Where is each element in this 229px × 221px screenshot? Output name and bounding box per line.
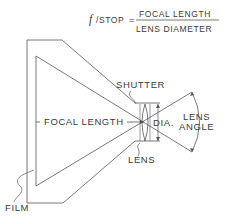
formula-f: f	[89, 12, 94, 26]
shutter-leader	[129, 91, 136, 104]
film-leader	[14, 170, 34, 202]
lens-angle-label-2: ANGLE	[179, 121, 214, 132]
formula-stop: /STOP	[96, 15, 124, 25]
fstop-formula: f /STOP = FOCAL LENGTH LENS DIAMETER	[89, 9, 219, 34]
focal-length-label: FOCAL LENGTH	[44, 116, 124, 127]
formula-numerator: FOCAL LENGTH	[139, 9, 211, 19]
shutter-label: SHUTTER	[116, 79, 165, 90]
dia-arrow-top	[156, 104, 160, 108]
formula-equals: =	[129, 14, 135, 25]
dia-label: DIA.	[153, 117, 174, 128]
light-ray-bottom	[36, 92, 192, 186]
lens-label: LENS	[128, 154, 155, 165]
formula-denominator: LENS DIAMETER	[136, 24, 212, 34]
light-ray-top	[36, 56, 192, 152]
film-label: FILM	[5, 202, 29, 213]
dia-arrow-bottom	[156, 137, 160, 141]
camera-body-top-diagonal	[62, 40, 135, 103]
camera-diagram: f /STOP = FOCAL LENGTH LENS DIAMETER FOC…	[0, 0, 229, 221]
